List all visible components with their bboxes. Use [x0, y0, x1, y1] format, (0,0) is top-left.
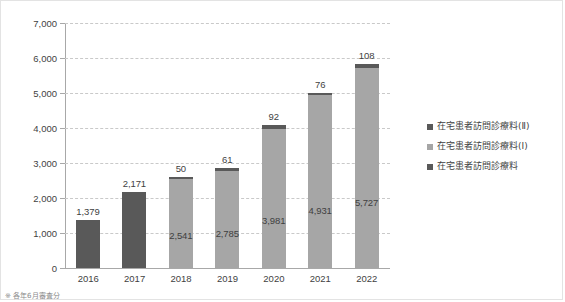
y-axis-tick-mark [60, 93, 65, 94]
bar-segment-type-2[interactable] [262, 125, 286, 128]
bar-value-label: 1,379 [76, 206, 99, 217]
legend-item[interactable]: 在宅患者訪問診療料(Ⅰ) [427, 139, 529, 154]
bar-value-label: 92 [269, 111, 279, 122]
bar-value-label: 4,931 [309, 205, 332, 216]
bar-segment-type-1[interactable] [169, 179, 193, 268]
y-axis-tick-mark [60, 58, 65, 59]
y-axis-tick-mark [60, 128, 65, 129]
bar-value-label: 2,785 [216, 228, 239, 239]
legend-item[interactable]: 在宅患者訪問診療料 [427, 159, 529, 174]
bar-value-label: 5,727 [355, 197, 378, 208]
bar-segment-total[interactable] [122, 192, 146, 268]
bar-segment-type-1[interactable] [355, 68, 379, 268]
x-axis-tick-label: 2020 [251, 273, 297, 284]
bar-segment-type-2[interactable] [215, 168, 239, 171]
y-axis-tick-label: 2,000 [13, 193, 57, 204]
legend-item-label: 在宅患者訪問診療料(Ⅰ) [437, 139, 528, 154]
bar-segment-type-2[interactable] [355, 64, 379, 68]
legend-item[interactable]: 在宅患者訪問診療料(Ⅱ) [427, 119, 529, 134]
gridline [65, 268, 390, 269]
bar-value-label: 76 [315, 79, 325, 90]
bar-segment-type-2[interactable] [308, 93, 332, 96]
bar-group[interactable]: 2,171 [111, 23, 157, 268]
legend-swatch-icon [427, 124, 433, 130]
legend-swatch-icon [427, 164, 433, 170]
x-axis-tick-label: 2021 [297, 273, 343, 284]
bar-group[interactable]: 2,78561 [204, 23, 250, 268]
y-axis-tick-label: 4,000 [13, 123, 57, 134]
y-axis-tick-label: 6,000 [13, 53, 57, 64]
y-axis-tick-label: 1,000 [13, 228, 57, 239]
legend-item-label: 在宅患者訪問診療料(Ⅱ) [437, 119, 529, 134]
x-axis-tick-label: 2016 [65, 273, 111, 284]
legend-item-label: 在宅患者訪問診療料 [437, 159, 518, 174]
y-axis-tick-label: 0 [13, 263, 57, 274]
bar-value-label: 2,171 [123, 178, 146, 189]
bar-value-label: 3,981 [262, 215, 285, 226]
bar-group[interactable]: 2,54150 [158, 23, 204, 268]
bar-segment-type-2[interactable] [169, 177, 193, 180]
bar-segment-total[interactable] [76, 220, 100, 268]
x-axis-tick-label: 2019 [204, 273, 250, 284]
x-axis-tick-label: 2022 [344, 273, 390, 284]
bar-value-label: 2,541 [169, 230, 192, 241]
plot-area: 1,3792,1712,541502,785613,981924,931765,… [65, 23, 390, 268]
bar-group[interactable]: 5,727108 [344, 23, 390, 268]
y-axis-tick-mark [60, 198, 65, 199]
bar-segment-type-1[interactable] [215, 171, 239, 268]
bar-group[interactable]: 3,98192 [251, 23, 297, 268]
chart-legend: 在宅患者訪問診療料(Ⅱ)在宅患者訪問診療料(Ⅰ)在宅患者訪問診療料 [427, 119, 529, 179]
x-axis-tick-label: 2018 [158, 273, 204, 284]
y-axis-tick-label: 3,000 [13, 158, 57, 169]
bar-group[interactable]: 4,93176 [297, 23, 343, 268]
bar-group[interactable]: 1,379 [65, 23, 111, 268]
bar-segment-type-1[interactable] [308, 95, 332, 268]
bar-value-label: 50 [176, 163, 186, 174]
y-axis-tick-mark [60, 23, 65, 24]
chart-footnote: ※ 各年6月審査分 [5, 290, 60, 300]
bar-value-label: 108 [359, 50, 375, 61]
bar-segment-type-1[interactable] [262, 129, 286, 268]
y-axis-tick-mark [60, 163, 65, 164]
bar-value-label: 61 [222, 154, 232, 165]
y-axis-tick-label: 7,000 [13, 18, 57, 29]
x-axis-tick-label: 2017 [111, 273, 157, 284]
y-axis-tick-mark [60, 268, 65, 269]
y-axis-tick-label: 5,000 [13, 88, 57, 99]
legend-swatch-icon [427, 144, 433, 150]
y-axis-tick-mark [60, 233, 65, 234]
chart-container: 01,0002,0003,0004,0005,0006,0007,000 1,3… [0, 0, 563, 300]
